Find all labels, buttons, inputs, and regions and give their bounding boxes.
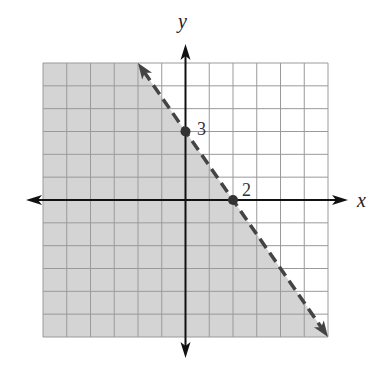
intercept-point [181, 127, 191, 137]
intercept-point [228, 195, 238, 205]
inequality-graph: x y 3 2 [0, 0, 382, 377]
y-intercept-label: 3 [197, 119, 206, 139]
coordinate-plane: x y 3 2 [0, 0, 382, 377]
x-intercept-label: 2 [242, 180, 251, 200]
x-axis-label: x [356, 189, 366, 211]
y-axis-label: y [176, 10, 187, 33]
